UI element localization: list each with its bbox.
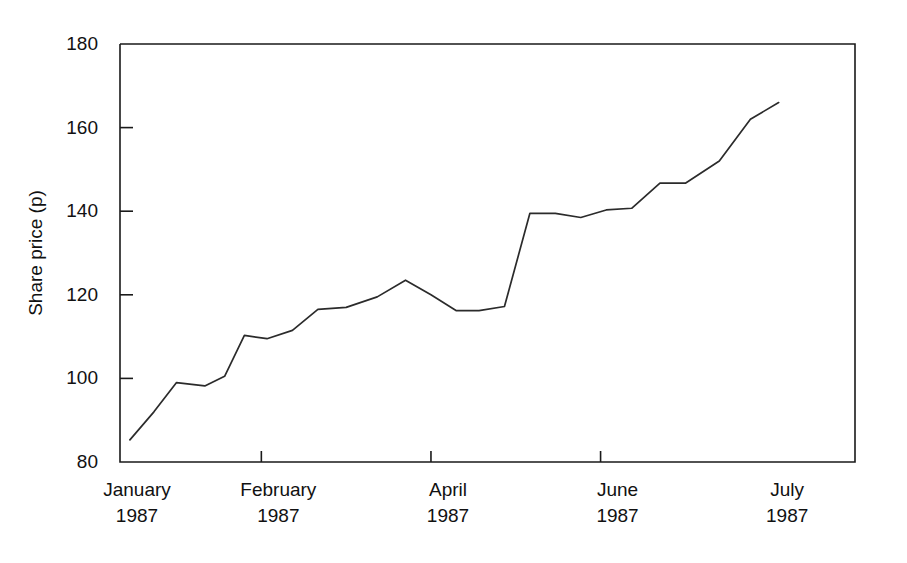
y-axis-title: Share price (p): [25, 190, 46, 316]
axis-frame: [120, 44, 855, 462]
x-tick-label-month-0: January: [103, 479, 171, 500]
x-tick-label-year-3: 1987: [596, 505, 638, 526]
x-axis-ticks: [261, 451, 600, 462]
y-tick-label-180: 180: [66, 33, 98, 54]
x-axis-tick-labels: January1987February1987April1987June1987…: [103, 479, 808, 526]
y-tick-label-100: 100: [66, 367, 98, 388]
y-tick-label-80: 80: [77, 451, 98, 472]
chart-figure: 80100120140160180 January1987February198…: [0, 0, 907, 563]
line-chart: 80100120140160180 January1987February198…: [0, 0, 907, 563]
data-series-group: [130, 103, 779, 440]
x-tick-label-year-4: 1987: [766, 505, 808, 526]
y-axis-tick-labels: 80100120140160180: [66, 33, 98, 472]
y-tick-label-120: 120: [66, 284, 98, 305]
x-tick-label-year-0: 1987: [116, 505, 158, 526]
x-tick-label-month-3: June: [597, 479, 638, 500]
plot-border: [120, 44, 855, 462]
data-line-0: [130, 103, 779, 440]
y-tick-label-160: 160: [66, 117, 98, 138]
x-tick-label-month-4: July: [770, 479, 804, 500]
y-tick-label-140: 140: [66, 200, 98, 221]
x-tick-label-year-1: 1987: [257, 505, 299, 526]
y-axis-ticks: [120, 128, 133, 379]
x-tick-label-month-1: February: [240, 479, 317, 500]
x-tick-label-year-2: 1987: [427, 505, 469, 526]
x-tick-label-month-2: April: [429, 479, 467, 500]
